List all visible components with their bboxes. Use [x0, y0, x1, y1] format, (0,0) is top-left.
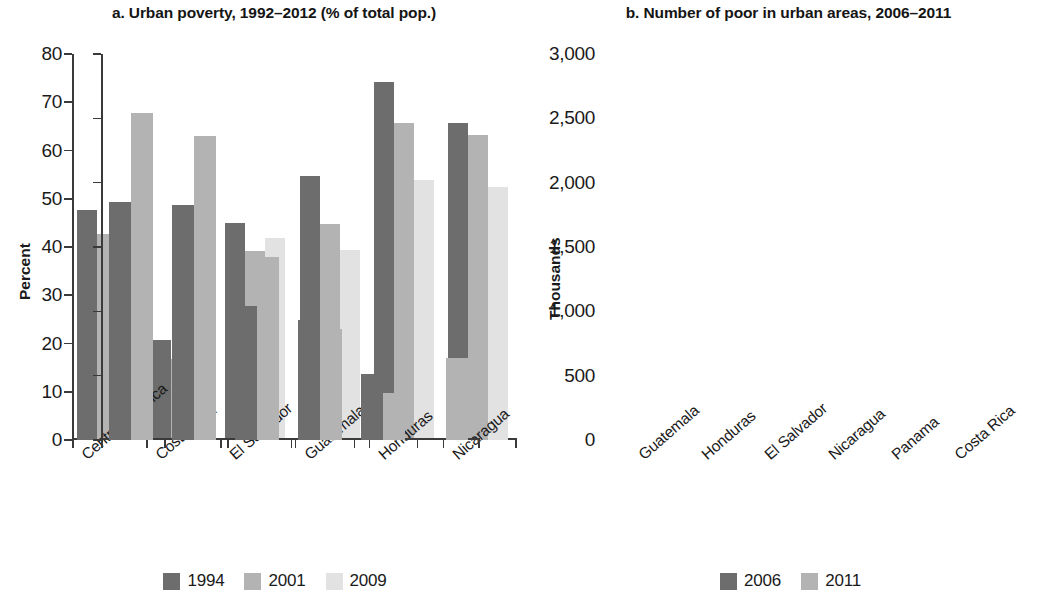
y-tick-label: 0 — [585, 429, 595, 451]
y-tick — [64, 343, 72, 345]
legend-swatch-icon — [720, 573, 737, 590]
bar-2006-honduras — [172, 205, 194, 440]
x-tick — [227, 440, 229, 448]
chart-b-title: b. Number of poor in urban areas, 2006–2… — [530, 4, 1041, 22]
y-tick-label: 2,000 — [549, 172, 595, 194]
y-tick-label: 1,000 — [549, 300, 595, 322]
legend-item-2009[interactable]: 2009 — [326, 571, 387, 591]
y-tick-label: 40 — [41, 236, 62, 258]
x-tick — [72, 440, 74, 448]
y-tick-label: 60 — [41, 140, 62, 162]
legend-swatch-icon — [326, 573, 343, 590]
bar-2006-guatemala — [109, 202, 131, 440]
y-tick — [64, 294, 72, 296]
x-tick — [515, 440, 517, 448]
y-tick — [64, 101, 72, 103]
y-tick — [93, 311, 101, 313]
y-tick-label: 1,500 — [549, 236, 595, 258]
legend-label: 2006 — [744, 571, 781, 591]
y-tick — [64, 198, 72, 200]
x-tick — [478, 440, 480, 448]
legend-label: 2011 — [825, 571, 861, 591]
bar-2011-honduras — [194, 136, 216, 440]
x-tick — [369, 440, 371, 448]
legend-swatch-icon — [244, 573, 261, 590]
x-tick — [146, 440, 148, 448]
y-tick — [64, 391, 72, 393]
bar-2011-nicaragua — [320, 329, 342, 440]
y-tick-label: 0 — [52, 429, 62, 451]
y-tick — [93, 439, 101, 441]
legend-item-2001[interactable]: 2001 — [244, 571, 305, 591]
legend-label: 2001 — [268, 571, 305, 591]
y-tick-label: 2,500 — [549, 107, 595, 129]
y-tick — [93, 246, 101, 248]
y-tick-label: 10 — [41, 381, 62, 403]
chart-panel-b: b. Number of poor in urban areas, 2006–2… — [530, 0, 1041, 599]
x-tick — [354, 440, 356, 448]
bar-group — [291, 54, 354, 440]
bar-2006-nicaragua — [298, 320, 320, 440]
chart-a-title: a. Urban poverty, 1992–2012 (% of total … — [0, 4, 530, 22]
x-tick — [164, 440, 166, 448]
legend-swatch-icon — [163, 573, 180, 590]
x-tick — [443, 440, 445, 448]
bar-2006-panama — [361, 374, 383, 440]
bar-2011-costa-rica — [446, 358, 468, 440]
chart-b-legend: 20062011 — [530, 571, 1041, 591]
bar-2011-guatemala — [131, 113, 153, 440]
legend-swatch-icon — [801, 573, 818, 590]
bar-2009-nicaragua — [488, 187, 508, 440]
bar-2006-el-salvador — [235, 306, 257, 440]
bar-1994-central-america — [77, 210, 97, 440]
legend-item-1994[interactable]: 1994 — [163, 571, 224, 591]
x-tick — [295, 440, 297, 448]
bar-group — [164, 54, 227, 440]
y-tick — [93, 375, 101, 377]
y-tick-label: 30 — [41, 284, 62, 306]
chart-a-legend: 199420012009 — [0, 571, 530, 591]
legend-label: 1994 — [187, 571, 224, 591]
bar-group — [417, 54, 480, 440]
y-tick-label: 80 — [41, 43, 62, 65]
x-tick — [220, 440, 222, 448]
x-tick — [417, 440, 419, 448]
x-tick — [291, 440, 293, 448]
y-tick — [64, 439, 72, 441]
legend-label: 2009 — [350, 571, 387, 591]
y-tick-label: 50 — [41, 188, 62, 210]
legend-item-2011[interactable]: 2011 — [801, 571, 861, 591]
y-tick-label: 3,000 — [549, 43, 595, 65]
bar-2011-el-salvador — [257, 257, 279, 440]
legend-item-2006[interactable]: 2006 — [720, 571, 781, 591]
y-tick — [64, 53, 72, 55]
chart-b-bars — [101, 54, 480, 440]
y-tick — [64, 150, 72, 152]
chart-b-y-tick-labels: 05001,0001,5002,0002,5003,000 — [538, 54, 595, 440]
bar-group — [227, 54, 290, 440]
y-tick-label: 70 — [41, 91, 62, 113]
y-tick — [93, 53, 101, 55]
figure-container: a. Urban poverty, 1992–2012 (% of total … — [0, 0, 1041, 599]
x-tick — [101, 440, 103, 448]
chart-a-y-tick-labels: 01020304050607080 — [0, 54, 62, 440]
y-tick — [93, 118, 101, 120]
y-tick — [64, 246, 72, 248]
y-tick — [93, 182, 101, 184]
bar-group — [354, 54, 417, 440]
chart-b-plot-area — [101, 54, 480, 440]
bar-2011-panama — [383, 393, 405, 440]
bar-group — [101, 54, 164, 440]
y-tick-label: 500 — [564, 365, 595, 387]
y-tick-label: 20 — [41, 333, 62, 355]
